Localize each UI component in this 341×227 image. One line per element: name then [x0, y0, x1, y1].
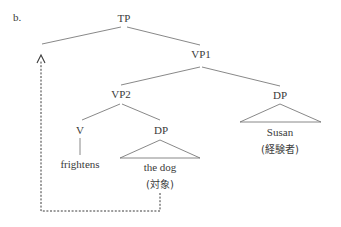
node-tp: TP	[118, 12, 131, 24]
node-vp2: VP2	[111, 88, 131, 100]
edge-tp-spec	[42, 27, 121, 44]
edge-vp1-vp2	[121, 67, 200, 85]
syntax-tree-diagram: b. TP VP1 VP2 DP Susan (経験者) V frightens…	[0, 0, 341, 227]
node-dp-object: DP	[154, 124, 168, 136]
node-vp1: VP1	[191, 48, 211, 60]
node-v: V	[76, 124, 84, 136]
edge-vp1-dp	[202, 67, 280, 86]
triangle-dp-subject	[240, 104, 321, 122]
leaf-subject-role: (経験者)	[261, 143, 299, 155]
edge-vp2-dp	[122, 104, 160, 120]
leaf-subject: Susan	[267, 126, 294, 138]
triangle-dp-object	[120, 140, 200, 158]
movement-arrow-path	[41, 60, 160, 211]
figure-label: b.	[13, 11, 22, 23]
leaf-object: the dog	[144, 161, 177, 173]
leaf-verb: frightens	[60, 158, 99, 170]
edge-vp2-v	[82, 104, 120, 120]
edge-tp-vp1	[127, 27, 200, 45]
leaf-object-role: (対象)	[146, 178, 174, 190]
node-dp-subject: DP	[273, 89, 287, 101]
